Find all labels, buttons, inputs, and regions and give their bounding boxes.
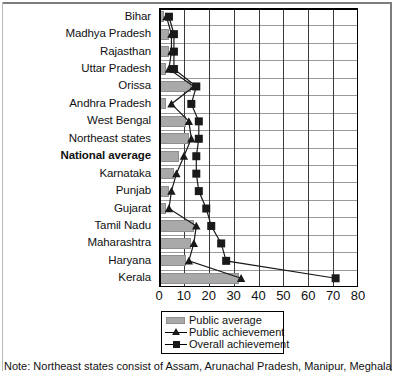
chart: BiharMadhya PradeshRajasthanUttar Prades…	[0, 0, 395, 373]
x-axis-tick-labels: 01020304050607080	[0, 289, 395, 307]
series-line	[166, 17, 241, 279]
line-series-layer	[159, 8, 358, 287]
y-axis-tick-label: Andhra Pradesh	[69, 98, 151, 110]
data-point-square	[170, 65, 178, 73]
x-axis-line	[159, 286, 358, 288]
data-point-square	[192, 152, 200, 160]
x-axis-tick-label: 20	[202, 289, 216, 302]
y-axis-labels: BiharMadhya PradeshRajasthanUttar Prades…	[0, 8, 155, 287]
plot-area	[159, 8, 358, 287]
x-axis-tick-label: 40	[251, 289, 265, 302]
legend-label: Overall achievement	[188, 339, 289, 350]
data-point-square	[332, 274, 340, 282]
data-point-square	[187, 100, 195, 108]
data-point-square	[195, 187, 203, 195]
y-axis-tick-label: Maharashtra	[88, 238, 151, 250]
x-axis-tick-label: 80	[351, 289, 365, 302]
y-axis-tick-label: Rajasthan	[100, 46, 151, 58]
y-axis-tick-label: Uttar Pradesh	[81, 63, 151, 75]
x-axis-tick-label: 30	[226, 289, 240, 302]
legend-label: Public average	[188, 315, 262, 326]
y-axis-line	[159, 8, 161, 287]
data-point-square	[217, 239, 225, 247]
y-axis-tick-label: Punjab	[116, 185, 151, 197]
x-axis-tick-label: 50	[276, 289, 290, 302]
y-axis-tick-label: Northeast states	[69, 133, 151, 145]
y-axis-tick-label: Madhya Pradesh	[65, 28, 151, 40]
x-axis-tick-label: 60	[301, 289, 315, 302]
legend-item-public-average: Public average	[165, 314, 280, 326]
y-axis-tick-label: National average	[61, 150, 151, 162]
legend-item-public-achievement: Public achievement	[165, 326, 280, 338]
plot-border-right	[357, 8, 359, 287]
data-point-triangle	[172, 169, 180, 177]
plot-border-top	[159, 8, 358, 10]
data-point-triangle	[185, 257, 193, 265]
data-point-square	[195, 135, 203, 143]
legend-label: Public achievement	[188, 327, 284, 338]
data-point-square	[192, 170, 200, 178]
data-point-triangle	[190, 239, 198, 247]
line-square-marker-icon	[165, 339, 187, 350]
y-axis-tick-label: Orissa	[118, 81, 151, 93]
data-point-triangle	[167, 187, 175, 195]
data-point-square	[222, 257, 230, 265]
line-triangle-marker-icon	[165, 327, 187, 338]
data-point-square	[192, 82, 200, 90]
data-point-square	[170, 30, 178, 38]
bar-swatch-icon	[165, 315, 187, 326]
data-point-triangle	[165, 204, 173, 212]
data-point-triangle	[180, 152, 188, 160]
y-axis-tick-label: Kerala	[118, 273, 151, 285]
y-axis-tick-label: Bihar	[125, 11, 151, 23]
data-point-square	[207, 222, 215, 230]
x-axis-tick-label: 10	[177, 289, 191, 302]
data-point-triangle	[187, 135, 195, 143]
y-axis-tick-label: Tamil Nadu	[94, 220, 151, 232]
legend-item-overall-achievement: Overall achievement	[165, 338, 280, 350]
data-point-square	[202, 205, 210, 213]
data-point-square	[165, 13, 173, 21]
data-point-square	[195, 117, 203, 125]
data-point-triangle	[237, 274, 245, 282]
data-point-square	[170, 48, 178, 56]
y-axis-tick-label: Haryana	[108, 255, 151, 267]
y-axis-tick-label: Gujarat	[114, 203, 151, 215]
x-axis-tick-label: 0	[155, 289, 162, 302]
y-axis-tick-label: West Bengal	[87, 116, 151, 128]
chart-footnote: Note: Northeast states consist of Assam,…	[4, 360, 392, 372]
chart-legend: Public average Public achievement Overal…	[161, 311, 284, 354]
x-axis-tick-label: 70	[326, 289, 340, 302]
data-point-triangle	[192, 222, 200, 230]
y-axis-tick-label: Karnataka	[99, 168, 151, 180]
